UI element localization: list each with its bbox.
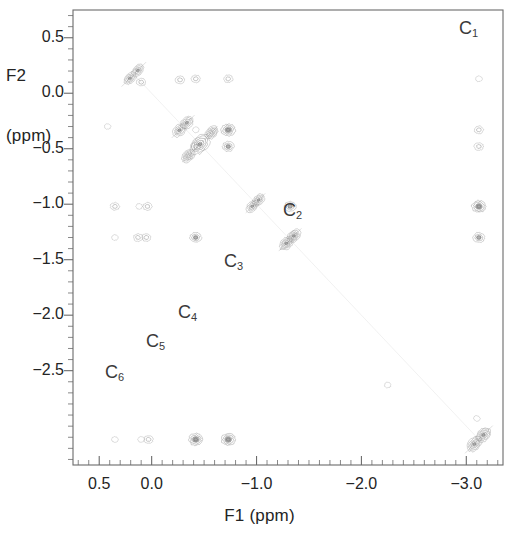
x-tick-label: 0.0 bbox=[122, 475, 182, 493]
peak-label-c2: C2 bbox=[283, 200, 302, 221]
cross-peak bbox=[474, 143, 484, 151]
cross-peak bbox=[136, 204, 143, 210]
cross-peak bbox=[192, 127, 199, 133]
cross-peak bbox=[112, 235, 119, 241]
y-tick-label: 0.0 bbox=[6, 83, 64, 101]
peak-label-c4: C4 bbox=[178, 302, 197, 323]
peak-label-c6: C6 bbox=[105, 362, 124, 383]
cross-peak bbox=[475, 76, 482, 82]
diagonal-peak-c4 bbox=[181, 126, 218, 163]
nmr-spectrum-figure: F2 (ppm) F1 (ppm) −2.5−2.0−1.5−1.0−0.50.… bbox=[0, 0, 519, 548]
x-axis-title: F1 (ppm) bbox=[0, 506, 519, 526]
cross-peak bbox=[144, 436, 153, 444]
cross-peak bbox=[221, 433, 235, 445]
diagonal-peak-c1 bbox=[465, 426, 493, 454]
cross-peak bbox=[471, 200, 486, 212]
contour-peaks bbox=[105, 62, 493, 453]
y-tick-label: −1.0 bbox=[6, 194, 64, 212]
cross-peak bbox=[384, 382, 390, 387]
cross-peak bbox=[222, 141, 234, 151]
cross-peak bbox=[189, 433, 203, 446]
cross-peak bbox=[474, 416, 481, 422]
cross-peak bbox=[110, 202, 119, 210]
cross-peak bbox=[224, 75, 233, 83]
diagonal-peak-c5 bbox=[172, 115, 195, 138]
y-tick-label: −2.0 bbox=[6, 305, 64, 323]
cross-peak bbox=[105, 124, 111, 130]
y-tick-label: −0.5 bbox=[6, 139, 64, 157]
cross-peak bbox=[134, 234, 143, 242]
peak-label-c1: C1 bbox=[459, 18, 478, 39]
peak-label-c3: C3 bbox=[224, 251, 243, 272]
spectrum-canvas bbox=[0, 0, 519, 548]
cross-peak bbox=[175, 76, 185, 84]
x-tick-label: −1.0 bbox=[227, 475, 287, 493]
x-tick-label: −2.0 bbox=[331, 475, 391, 493]
diagonal-peak-c2 bbox=[279, 228, 302, 251]
y-tick-label: −2.5 bbox=[6, 361, 64, 379]
cross-peak bbox=[190, 232, 202, 242]
y-axis-title: F2 (ppm) bbox=[6, 26, 51, 186]
cross-peak bbox=[474, 126, 483, 134]
diagonal-peak-c3 bbox=[246, 193, 266, 213]
peak-label-c5: C5 bbox=[146, 331, 165, 352]
y-tick-label: 0.5 bbox=[6, 28, 64, 46]
x-tick-label: −3.0 bbox=[436, 475, 496, 493]
cross-peak bbox=[138, 436, 145, 442]
x-tick-label: 0.5 bbox=[69, 475, 129, 493]
cross-peak bbox=[221, 124, 236, 137]
cross-peak bbox=[112, 437, 119, 443]
cross-peak bbox=[142, 234, 151, 242]
cross-peak bbox=[191, 75, 201, 83]
cross-peak bbox=[473, 232, 485, 242]
y-tick-label: −1.5 bbox=[6, 250, 64, 268]
cross-peak bbox=[143, 202, 153, 210]
diagonal-peak-c6 bbox=[122, 62, 146, 86]
